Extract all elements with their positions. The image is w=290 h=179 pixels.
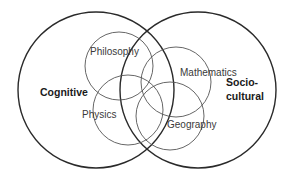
philosophy-label: Philosophy [90, 46, 139, 57]
venn-diagram: Cognitive Socio- cultural Philosophy Mat… [0, 0, 290, 179]
geography-label: Geography [167, 119, 216, 130]
mathematics-label: Mathematics [180, 67, 237, 78]
socio-cultural-label-line2: cultural [226, 90, 264, 102]
cognitive-label: Cognitive [40, 86, 88, 98]
physics-label: Physics [82, 109, 116, 120]
mathematics-circle [141, 47, 211, 117]
philosophy-circle [85, 32, 153, 100]
